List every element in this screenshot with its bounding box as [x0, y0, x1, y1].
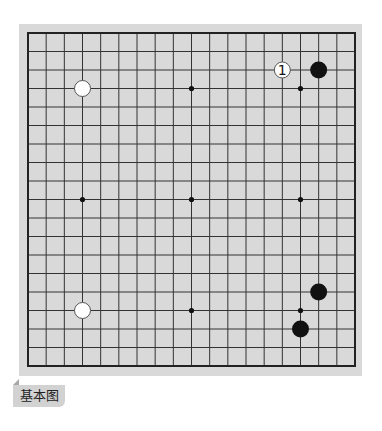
star-point-icon: [80, 197, 85, 202]
go-diagram: 1 基本图: [0, 0, 382, 431]
star-point-icon: [298, 197, 303, 202]
diagram-caption: 基本图: [13, 385, 65, 407]
black-stone-icon: [292, 321, 309, 338]
move-number-label: 1: [278, 62, 287, 78]
star-point-icon: [189, 308, 194, 313]
white-stone-icon: [75, 303, 91, 319]
black-stone-icon: [310, 62, 327, 79]
star-point-icon: [189, 197, 194, 202]
star-point-icon: [298, 308, 303, 313]
black-stone-icon: [310, 284, 327, 301]
go-board: 1: [0, 0, 382, 431]
white-stone-icon: [75, 81, 91, 97]
star-point-icon: [298, 86, 303, 91]
star-point-icon: [189, 86, 194, 91]
